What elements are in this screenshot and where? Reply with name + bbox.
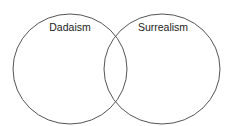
set-label-surrealism: Surrealism — [138, 21, 188, 33]
set-label-dadaism: Dadaism — [49, 21, 91, 33]
venn-diagram: Dadaism Surrealism — [0, 0, 229, 126]
